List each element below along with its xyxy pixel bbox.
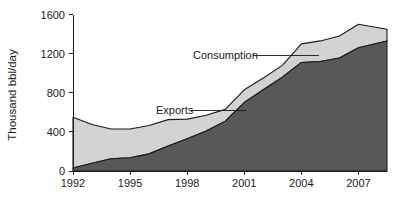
y-tick-label: 1600 <box>41 9 65 21</box>
area-chart-figure: 040080012001600 199219951998200120042007… <box>0 0 417 207</box>
x-tick-label: 1995 <box>118 177 142 189</box>
y-axis-ticks: 040080012001600 <box>41 9 73 178</box>
series-annotation-label: Consumption <box>193 49 258 61</box>
x-tick-label: 2004 <box>289 177 313 189</box>
y-tick-label: 400 <box>47 126 65 138</box>
plot-area <box>73 24 387 171</box>
y-axis-title: Thousand bbl/day <box>6 49 18 141</box>
x-tick-label: 1998 <box>175 177 199 189</box>
x-tick-label: 2007 <box>346 177 370 189</box>
chart-canvas: 040080012001600 199219951998200120042007… <box>0 0 417 207</box>
x-tick-label: 2001 <box>232 177 256 189</box>
y-tick-label: 1200 <box>41 48 65 60</box>
y-tick-label: 0 <box>59 165 65 177</box>
x-tick-label: 1992 <box>61 177 85 189</box>
y-tick-label: 800 <box>47 87 65 99</box>
x-axis-ticks: 199219951998200120042007 <box>61 171 371 189</box>
series-annotation-label: Exports <box>156 104 194 116</box>
